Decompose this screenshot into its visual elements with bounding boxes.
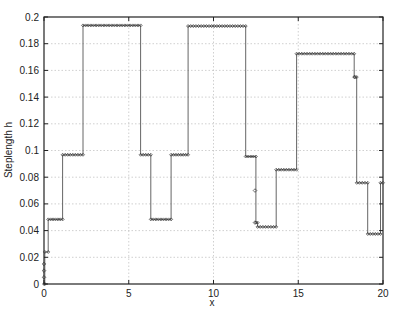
y-tick-label: 0.2 [25, 12, 39, 23]
y-tick-label: 0.04 [20, 225, 40, 236]
x-tick-label: 15 [293, 288, 305, 299]
x-tick-label: 20 [377, 288, 389, 299]
x-axis-label: x [210, 297, 215, 308]
y-tick-label: 0.06 [20, 198, 40, 209]
y-tick-label: 0.16 [20, 65, 40, 76]
y-tick-label: 0.14 [20, 92, 40, 103]
y-tick-label: 0.18 [20, 38, 40, 49]
x-tick-label: 5 [126, 288, 132, 299]
y-tick-label: 0.02 [20, 252, 40, 263]
x-tick-label: 0 [41, 288, 47, 299]
y-tick-label: 0.08 [20, 172, 40, 183]
grid-lines [44, 17, 383, 284]
y-tick-label: 0 [33, 279, 39, 290]
steplength-chart: 00.020.040.060.080.10.120.140.160.180.2 … [0, 0, 398, 324]
y-axis-label: Steplength h [3, 122, 14, 178]
y-tick-label: 0.12 [20, 118, 40, 129]
y-tick-label: 0.1 [25, 145, 39, 156]
x-axis-ticks: 05101520 [41, 17, 389, 299]
